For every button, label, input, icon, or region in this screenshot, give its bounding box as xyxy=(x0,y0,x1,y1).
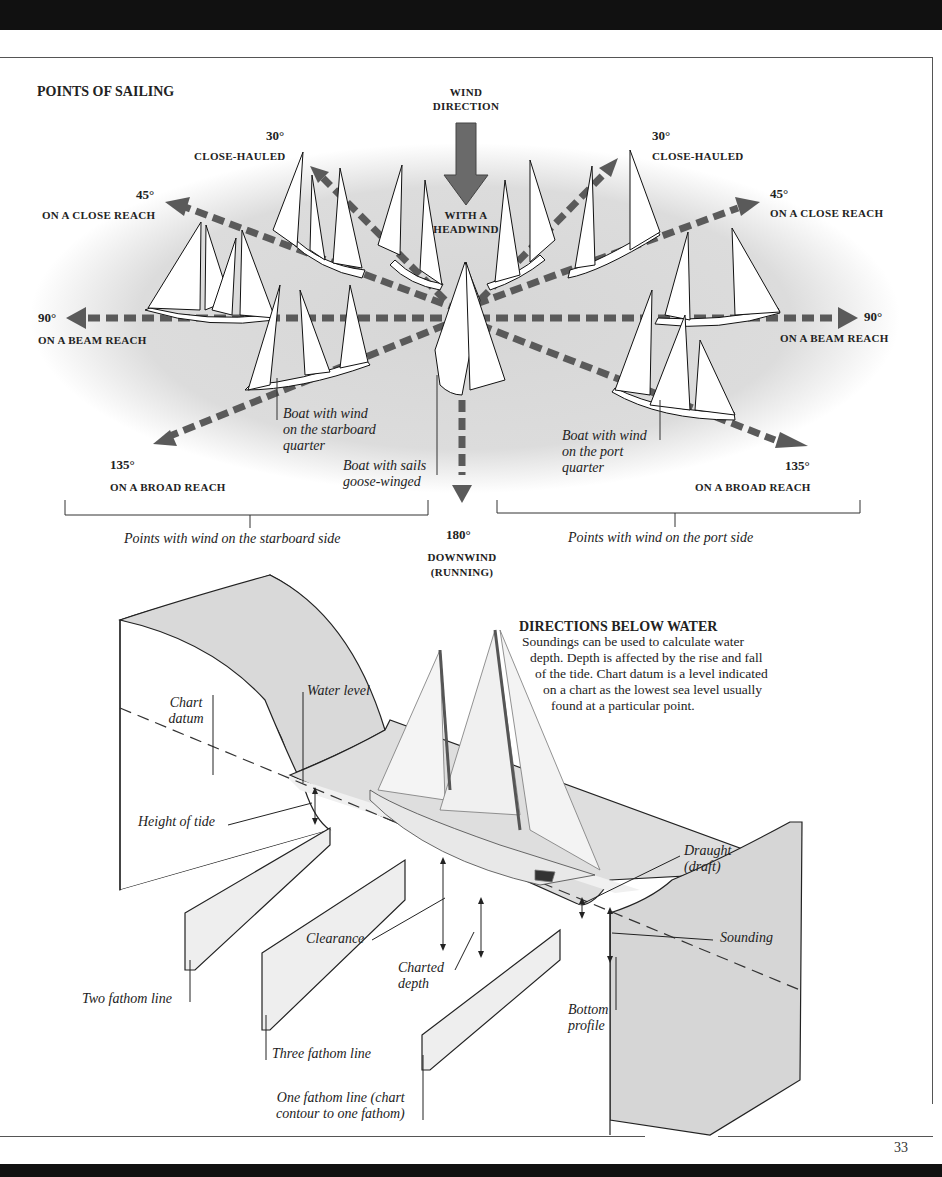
label-sounding: Sounding xyxy=(720,930,773,946)
left-close-reach-label: ON A CLOSE REACH xyxy=(42,209,155,221)
bottom-black-border xyxy=(0,1164,942,1177)
wind-label-line2: DIRECTION xyxy=(426,100,506,112)
right-close-reach-degree: 45° xyxy=(770,186,788,202)
annotation-starboard-quarter: Boat with wind on the starboard quarter xyxy=(283,406,376,454)
headwind-label-line2: HEADWIND xyxy=(426,223,506,235)
running-label: (RUNNING) xyxy=(422,566,502,578)
left-broad-reach-degree: 135° xyxy=(110,457,135,473)
label-draught: Draught (draft) xyxy=(684,843,731,875)
label-clearance: Clearance xyxy=(306,931,364,947)
left-broad-reach-label: ON A BROAD REACH xyxy=(110,481,226,493)
body-line-3: of the tide. Chart datum is a level indi… xyxy=(535,666,768,682)
right-close-hauled-label: CLOSE-HAULED xyxy=(652,150,744,162)
left-close-hauled-label: CLOSE-HAULED xyxy=(194,150,286,162)
left-close-hauled-degree: 30° xyxy=(266,128,284,144)
label-chart-datum: Chart datum xyxy=(166,695,206,727)
label-bottom-profile: Bottom profile xyxy=(568,1002,608,1034)
right-close-reach-label: ON A CLOSE REACH xyxy=(770,207,883,219)
downwind-label: DOWNWIND xyxy=(422,551,502,563)
body-line-1: Soundings can be used to calculate water xyxy=(522,634,744,650)
headwind-label-line1: WITH A xyxy=(430,209,502,221)
label-one-fathom-line: One fathom line (chart contour to one fa… xyxy=(276,1090,405,1122)
label-charted-depth: Charted depth xyxy=(398,960,444,992)
label-water-level: Water level xyxy=(307,683,370,699)
label-two-fathom-line: Two fathom line xyxy=(82,991,172,1007)
bracket-label-port: Points with wind on the port side xyxy=(568,530,753,546)
wind-label-line1: WIND xyxy=(446,86,486,98)
right-beam-reach-degree: 90° xyxy=(864,309,882,325)
downwind-degree: 180° xyxy=(446,527,471,543)
body-line-5: found at a particular point. xyxy=(551,698,695,714)
right-beam-reach-label: ON A BEAM REACH xyxy=(780,332,889,344)
section-title-directions-below-water: DIRECTIONS BELOW WATER xyxy=(519,619,717,635)
section-title-points-of-sailing: POINTS OF SAILING xyxy=(37,84,174,100)
page-number: 33 xyxy=(894,1140,908,1156)
annotation-goose-winged: Boat with sails goose-winged xyxy=(343,458,426,490)
right-broad-reach-label: ON A BROAD REACH xyxy=(695,481,811,493)
annotation-port-quarter: Boat with wind on the port quarter xyxy=(562,428,647,476)
right-close-hauled-degree: 30° xyxy=(652,128,670,144)
left-beam-reach-label: ON A BEAM REACH xyxy=(38,334,147,346)
left-beam-reach-degree: 90° xyxy=(38,310,56,326)
label-height-of-tide: Height of tide xyxy=(138,814,215,830)
body-line-2: depth. Depth is affected by the rise and… xyxy=(530,650,763,666)
bracket-label-starboard: Points with wind on the starboard side xyxy=(124,531,341,547)
left-close-reach-degree: 45° xyxy=(136,187,154,203)
label-three-fathom-line: Three fathom line xyxy=(272,1046,371,1062)
right-broad-reach-degree: 135° xyxy=(785,458,810,474)
body-line-4: on a chart as the lowest sea level usual… xyxy=(543,682,762,698)
